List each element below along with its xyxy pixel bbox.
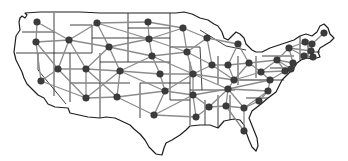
node-LA	[193, 114, 200, 121]
node-CA	[38, 78, 45, 85]
node-AL	[223, 103, 230, 110]
node-MS	[206, 104, 213, 111]
node-NC	[265, 88, 272, 95]
node-NV	[55, 66, 62, 73]
node-OK	[162, 88, 169, 95]
node-NM	[114, 94, 121, 101]
node-VT	[302, 39, 309, 46]
node-GA	[241, 105, 248, 112]
node-ND	[145, 19, 152, 26]
node-IL	[209, 62, 216, 69]
node-AR	[190, 92, 197, 99]
node-UT	[83, 66, 90, 73]
node-IN	[225, 62, 232, 69]
us-map	[0, 0, 348, 161]
node-MN	[180, 25, 187, 32]
node-NY	[286, 45, 293, 52]
node-MA	[308, 48, 315, 55]
node-RI	[310, 54, 317, 61]
node-OR	[33, 39, 40, 46]
node-ID	[66, 37, 73, 44]
node-TN	[225, 86, 232, 93]
node-OH	[246, 60, 253, 67]
node-TX	[151, 112, 158, 119]
node-WI	[204, 35, 211, 42]
node-CO	[117, 68, 124, 75]
node-CT	[301, 53, 308, 60]
node-AZ	[83, 95, 90, 102]
us-outline	[14, 12, 334, 155]
node-NH	[309, 41, 316, 48]
node-MT	[94, 20, 101, 27]
node-VA	[267, 77, 274, 84]
node-KY	[231, 77, 238, 84]
node-FL	[241, 128, 248, 135]
node-KS	[157, 71, 164, 78]
node-MO	[190, 71, 197, 78]
node-NE	[149, 53, 156, 60]
node-MD	[282, 68, 289, 75]
node-ME	[321, 30, 328, 37]
node-IA	[184, 49, 191, 56]
node-PA	[274, 57, 281, 64]
node-SC	[256, 98, 263, 105]
node-WV	[258, 69, 265, 76]
node-DE	[288, 66, 295, 73]
node-SD	[146, 36, 153, 43]
node-WY	[106, 44, 113, 51]
node-MI	[235, 41, 242, 48]
node-NJ	[290, 60, 297, 67]
node-WA	[34, 19, 41, 26]
